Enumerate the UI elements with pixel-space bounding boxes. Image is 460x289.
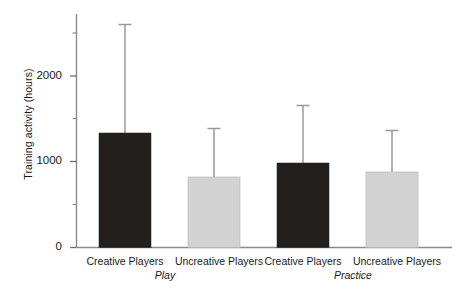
bar-1-creative-players-play: [99, 133, 151, 248]
bar-4-uncreative-players-practice: [366, 172, 418, 248]
bar-chart-figure: Training activity (hours) 0 1000 2000: [0, 0, 460, 289]
bar-group-3: [277, 105, 329, 248]
group-label-play: Play: [105, 270, 225, 281]
bar-3-creative-players-practice: [277, 163, 329, 248]
group-label-practice: Practice: [293, 270, 413, 281]
plot-area: [0, 0, 460, 289]
bar-group-4: [366, 130, 418, 248]
bar-group-2: [188, 128, 240, 248]
x-tick-label-4: Uncreative Players: [320, 256, 460, 267]
bar-2-uncreative-players-play: [188, 177, 240, 248]
y-axis-major-ticks: [70, 76, 77, 248]
bar-group-1: [99, 24, 151, 248]
